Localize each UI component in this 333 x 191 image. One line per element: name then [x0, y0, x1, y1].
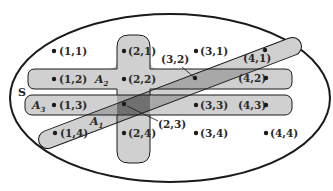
point-dot	[52, 49, 56, 53]
point-label: (3,4)	[200, 127, 228, 139]
point-dot	[193, 76, 197, 80]
point-label: (3,1)	[200, 45, 228, 57]
point-dot	[122, 77, 126, 81]
point-label: (4,2)	[238, 72, 266, 84]
point-dot	[264, 103, 268, 107]
point-label: (1,2)	[59, 73, 87, 85]
universe-label: S	[18, 86, 26, 99]
point-dot	[264, 131, 268, 135]
point-label: (4,4)	[270, 127, 298, 139]
point-label: (2,4)	[128, 127, 156, 139]
sample-space-diagram: S A2 A3 A1 (1,1) (2,1) (3,1) (4,1) (1,2)…	[0, 0, 333, 191]
point-label: (2,1)	[128, 45, 156, 57]
point-label: (4,1)	[243, 52, 271, 64]
point-dot	[122, 131, 126, 135]
point-dot	[264, 76, 268, 80]
point-dot	[122, 49, 126, 53]
point-dot	[122, 102, 126, 106]
point-label: (3,3)	[200, 99, 228, 111]
point-dot	[194, 131, 198, 135]
point-dot	[194, 49, 198, 53]
point-dot	[53, 131, 57, 135]
point-dot	[52, 103, 56, 107]
point-label: (2,2)	[128, 73, 156, 85]
point-dot	[52, 77, 56, 81]
point-label: (1,1)	[59, 45, 87, 57]
point-label: (1,4)	[60, 127, 88, 139]
point-label: (1,3)	[59, 99, 87, 111]
point-label: (2,3)	[158, 118, 186, 130]
point-dot	[194, 103, 198, 107]
point-dot	[263, 48, 267, 52]
point-label: (3,2)	[161, 53, 189, 65]
point-label: (4,3)	[238, 99, 266, 111]
